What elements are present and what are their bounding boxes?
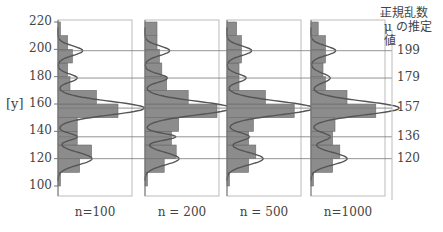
panel-label: n = 500 xyxy=(227,205,301,219)
y-tick-label: 180 xyxy=(22,69,52,83)
y-tick-label: 160 xyxy=(22,96,52,110)
histogram-bar xyxy=(311,22,318,36)
histogram-bar xyxy=(311,77,325,91)
y-tick-label: 100 xyxy=(22,178,52,192)
histogram-bar xyxy=(227,22,237,36)
legend-title-line2: μ の推定値 xyxy=(384,20,443,48)
histogram-chart xyxy=(0,0,443,232)
histogram-bar xyxy=(227,145,256,159)
histogram-bar xyxy=(58,63,68,77)
histogram-bar xyxy=(145,131,171,145)
histogram-bar xyxy=(227,104,294,118)
y-tick-label: 220 xyxy=(22,14,52,28)
histogram-bar xyxy=(227,131,249,145)
histogram-bar xyxy=(311,104,376,118)
histogram-200 xyxy=(145,22,217,186)
histogram-bar xyxy=(145,145,176,159)
histogram-bar xyxy=(145,104,217,118)
mu-estimate-label: 179 xyxy=(397,70,420,84)
y-tick-label: 120 xyxy=(22,151,52,165)
panel-label: n=100 xyxy=(58,205,132,219)
legend-title-line1: 正規乱数 xyxy=(380,6,428,20)
y-tick-label: 140 xyxy=(22,123,52,137)
mu-estimate-label: 120 xyxy=(397,151,420,165)
mu-estimate-label: 136 xyxy=(397,129,420,143)
panel-label: n=1000 xyxy=(311,205,385,219)
y-axis-label: [y] xyxy=(6,96,24,111)
histogram-bar xyxy=(311,63,323,77)
histogram-bar xyxy=(145,22,157,36)
y-tick-label: 200 xyxy=(22,41,52,55)
panel-label: n = 200 xyxy=(145,205,219,219)
mu-estimate-label: 157 xyxy=(397,100,420,114)
histogram-bar xyxy=(311,145,340,159)
